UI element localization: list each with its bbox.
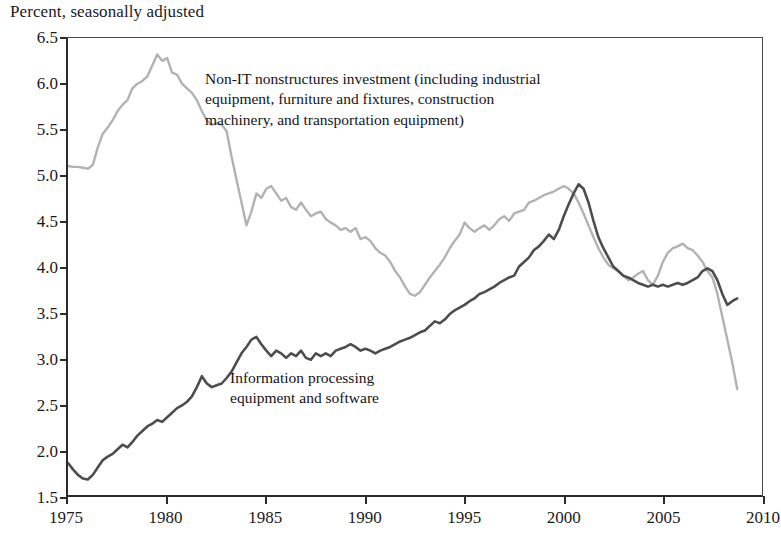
series-annotation-non-it: Non-IT nonstructures investment (includi… <box>205 69 685 130</box>
y-tick-label: 2.0 <box>12 443 58 460</box>
y-tick-mark <box>60 175 66 177</box>
y-tick-mark <box>60 313 66 315</box>
x-tick-label: 1980 <box>131 508 201 528</box>
x-tick-mark <box>265 496 267 504</box>
y-tick-mark <box>60 83 66 85</box>
x-tick-mark <box>66 496 68 504</box>
chart-figure: Percent, seasonally adjusted 1.52.02.53.… <box>0 0 781 551</box>
series-annotation-information-processing: Information processing equipment and sof… <box>230 368 490 409</box>
x-tick-mark <box>166 496 168 504</box>
y-tick-label: 4.0 <box>12 259 58 276</box>
x-tick-mark <box>663 496 665 504</box>
x-tick-mark <box>365 496 367 504</box>
y-tick-mark <box>60 405 66 407</box>
x-tick-mark <box>763 496 765 504</box>
x-tick-mark <box>464 496 466 504</box>
y-tick-mark <box>60 359 66 361</box>
x-tick-label: 1985 <box>230 508 300 528</box>
y-tick-label: 3.0 <box>12 351 58 368</box>
y-tick-label: 5.5 <box>12 121 58 138</box>
y-tick-label: 1.5 <box>12 489 58 506</box>
series-line-information-processing <box>68 184 737 479</box>
y-tick-mark <box>60 267 66 269</box>
x-tick-label: 2010 <box>728 508 781 528</box>
chart-axis-title: Percent, seasonally adjusted <box>10 2 204 22</box>
x-tick-label: 1995 <box>429 508 499 528</box>
y-tick-label: 6.5 <box>12 29 58 46</box>
x-tick-label: 1990 <box>330 508 400 528</box>
y-tick-label: 3.5 <box>12 305 58 322</box>
y-tick-mark <box>60 221 66 223</box>
y-tick-label: 4.5 <box>12 213 58 230</box>
x-tick-label: 1975 <box>31 508 101 528</box>
y-tick-mark <box>60 451 66 453</box>
y-tick-label: 2.5 <box>12 397 58 414</box>
y-tick-label: 5.0 <box>12 167 58 184</box>
x-tick-mark <box>564 496 566 504</box>
x-tick-label: 2000 <box>529 508 599 528</box>
y-tick-mark <box>60 129 66 131</box>
y-tick-mark <box>60 37 66 39</box>
y-tick-label: 6.0 <box>12 75 58 92</box>
x-tick-label: 2005 <box>628 508 698 528</box>
